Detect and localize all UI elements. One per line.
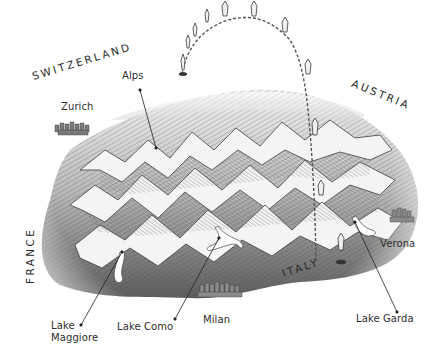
place-label-lake-maggiore-line1: Lake [51, 320, 75, 332]
place-label-milan: Milan [203, 314, 230, 326]
place-label-lake-maggiore-line2: Maggiore [51, 332, 98, 344]
illustrated-relief-map [0, 0, 440, 359]
place-label-verona: Verona [380, 238, 415, 250]
place-label-zurich: Zurich [61, 101, 94, 113]
place-label-lake-como: Lake Como [117, 321, 173, 333]
place-label-alps: Alps [122, 70, 144, 82]
place-label-lake-garda: Lake Garda [356, 313, 414, 325]
country-label-france: FRANCE [24, 228, 36, 284]
terrain [0, 0, 440, 359]
city-zurich [55, 122, 89, 135]
